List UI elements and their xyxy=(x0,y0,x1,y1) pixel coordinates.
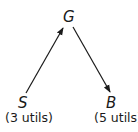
node-b: B xyxy=(106,96,116,111)
node-s: S xyxy=(18,96,28,111)
node-g: G xyxy=(63,10,75,25)
edge-g-to-b xyxy=(73,27,110,92)
edge-s-to-g xyxy=(26,28,63,93)
node-s-utility: (3 utils) xyxy=(5,112,53,125)
node-b-utility: (5 utils) xyxy=(94,112,138,125)
